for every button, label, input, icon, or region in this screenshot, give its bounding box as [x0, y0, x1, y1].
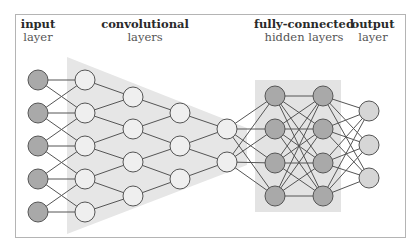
conv1-neuron [75, 103, 95, 123]
conv2-neuron [123, 119, 143, 139]
conv2-neuron [123, 152, 143, 172]
conv1-neuron [75, 169, 95, 189]
conv3-neuron [170, 136, 190, 156]
conv1-neuron [75, 202, 95, 222]
fully-connected-label: fully-connected hidden layers [244, 18, 364, 44]
fc2-neuron [313, 119, 333, 139]
input-neuron [28, 103, 48, 123]
fc1-neuron [265, 186, 285, 206]
output-layer-subtitle: layer [348, 31, 398, 44]
fc2-neuron [313, 86, 333, 106]
input-layer-label: input layer [15, 18, 61, 44]
input-neuron [28, 169, 48, 189]
fc1-neuron [265, 86, 285, 106]
conv1-neuron [75, 136, 95, 156]
conv1-neuron [75, 70, 95, 90]
convolutional-layers-label: convolutional layers [90, 18, 200, 44]
input-layer-subtitle: layer [15, 31, 61, 44]
fc2-neuron [313, 186, 333, 206]
conv3-neuron [170, 169, 190, 189]
input-neuron [28, 70, 48, 90]
conv2-neuron [123, 186, 143, 206]
fc1-neuron [265, 153, 285, 173]
fc2-neuron [313, 153, 333, 173]
conv3-neuron [170, 103, 190, 123]
output-layer-label: output layer [348, 18, 398, 44]
fc1-neuron [265, 119, 285, 139]
input-neuron [28, 202, 48, 222]
conv4-neuron [217, 152, 237, 172]
output-neuron [359, 168, 379, 188]
fully-connected-subtitle: hidden layers [244, 31, 364, 44]
conv4-neuron [217, 119, 237, 139]
conv2-neuron [123, 87, 143, 107]
input-neuron [28, 136, 48, 156]
output-neuron [359, 101, 379, 121]
convolutional-layers-subtitle: layers [90, 31, 200, 44]
output-neuron [359, 135, 379, 155]
